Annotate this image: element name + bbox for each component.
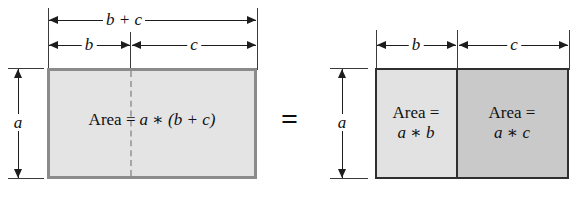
arrow-right-b — [121, 41, 130, 49]
left-extension-line-end — [257, 8, 258, 70]
right-extension-line-end — [569, 30, 570, 70]
arrow-down-a-right — [338, 169, 346, 178]
right-extension-tick-bottom — [330, 178, 368, 179]
arrow-right-c-right — [559, 41, 568, 49]
right-extension-line-start — [376, 30, 377, 70]
right-area-expression-b: a ∗ b — [393, 123, 440, 143]
right-extension-line-middle — [457, 30, 458, 70]
arrow-down-a — [14, 169, 22, 178]
distributive-law-figure: b + c b c a Area =a ∗ (b + c) = — [0, 0, 582, 201]
equals-sign: = — [281, 104, 298, 134]
right-area-prefix-b: Area = — [393, 103, 440, 123]
arrow-right-b-right — [447, 41, 456, 49]
arrow-up-a-right — [338, 69, 346, 78]
arrow-left-c-right — [459, 41, 468, 49]
dimension-label-b-plus-c: b + c — [103, 11, 145, 28]
left-area-prefix: Area = — [89, 110, 136, 129]
arrow-right-c — [247, 41, 256, 49]
right-area-expression-c: a ∗ c — [489, 123, 536, 143]
left-area-expression: a ∗ (b + c) — [139, 110, 215, 129]
left-extension-tick-bottom — [8, 178, 44, 179]
dimension-label-b-right: b — [409, 36, 424, 53]
left-figure-panel: b + c b c a Area =a ∗ (b + c) — [0, 0, 275, 201]
dimension-label-a: a — [11, 114, 26, 131]
arrow-up-a — [14, 69, 22, 78]
dimension-label-c-right: c — [507, 36, 521, 53]
right-extension-tick-top — [330, 68, 368, 69]
dimension-label-b: b — [82, 36, 97, 53]
arrow-right-b-plus-c — [247, 16, 256, 24]
arrow-left-b-right — [377, 41, 386, 49]
right-area-prefix-c: Area = — [489, 103, 536, 123]
arrow-left-b-plus-c — [49, 16, 58, 24]
arrow-left-b — [49, 41, 58, 49]
dimension-label-a-right: a — [335, 114, 350, 131]
dimension-line-b-plus-c — [49, 20, 256, 21]
right-area-text-b: Area = a ∗ b — [393, 103, 440, 143]
dimension-label-c: c — [187, 36, 201, 53]
arrow-left-c — [132, 41, 141, 49]
right-area-text-c: Area = a ∗ c — [489, 103, 536, 143]
left-area-text: Area =a ∗ (b + c) — [89, 110, 216, 130]
left-extension-line-middle — [130, 32, 131, 70]
